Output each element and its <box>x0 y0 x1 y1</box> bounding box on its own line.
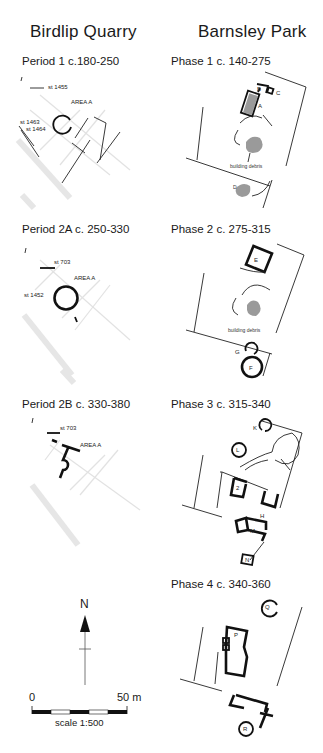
scale-segment <box>108 710 127 714</box>
grid-line <box>75 285 110 330</box>
label-st-1452: st 1452 <box>24 292 44 298</box>
roundhouse-ring <box>53 116 71 134</box>
north-arrow-head-icon <box>80 615 90 632</box>
label-2: 2 <box>236 485 240 491</box>
curved-feature <box>240 433 299 467</box>
barnsley-phase-1-plan: B C A building debris D <box>186 72 306 208</box>
building-m <box>246 518 266 541</box>
building-debris-area <box>246 137 263 153</box>
label-p: P <box>234 632 238 638</box>
label-area-a: AREA A <box>71 99 92 105</box>
birdlip-period-1-plan: st 1455 AREA A st 1463 st 1464 <box>18 77 130 198</box>
label-a: A <box>258 103 262 109</box>
scale-segment <box>51 710 70 714</box>
label-st-703: st 703 <box>54 259 71 265</box>
line-feature <box>281 459 290 470</box>
building-c <box>267 87 273 93</box>
barnsley-phase-3-plan: K L 2 H M N <box>182 419 302 565</box>
building-debris-area <box>247 301 261 316</box>
enclosure-boundary <box>276 244 304 333</box>
barnsley-phase-4-plan: Q P R <box>180 601 302 736</box>
label-st-703: st 703 <box>60 425 77 431</box>
north-label: N <box>80 597 89 611</box>
north-tick <box>25 248 26 253</box>
scale-segment <box>70 710 89 714</box>
road-band <box>24 315 72 375</box>
birdlip-period-2a-plan: st 703 AREA A st 1452 <box>22 195 130 375</box>
boundary-line <box>186 330 272 354</box>
label-h: H <box>260 513 264 519</box>
birdlip-period-2b-plan: st 703 AREA A <box>32 370 140 545</box>
scale-end-label: 50 m <box>117 691 141 703</box>
feature-mark <box>75 317 77 322</box>
label-n: N <box>245 557 249 563</box>
label-g: G <box>235 349 240 355</box>
boundary-line <box>215 652 218 684</box>
site-plans-drawing: st 1455 AREA A st 1463 st 1464 st 703 AR… <box>0 0 323 753</box>
boundary-line <box>197 107 203 160</box>
label-building-debris: building debris <box>230 163 263 169</box>
label-k: K <box>253 425 257 431</box>
ditch-line <box>75 118 88 138</box>
label-c: C <box>276 90 281 96</box>
label-b: B <box>257 86 261 92</box>
line-feature <box>263 115 272 126</box>
north-tick <box>32 418 33 423</box>
boundary-line <box>194 273 204 332</box>
building-unnamed <box>262 491 278 507</box>
label-st-1455: st 1455 <box>48 84 68 90</box>
barnsley-phase-2-plan: E building debris G F <box>186 244 304 377</box>
label-building-debris: building debris <box>228 327 261 333</box>
road-band <box>32 485 78 545</box>
north-tick <box>21 77 22 81</box>
label-m: M <box>250 528 255 534</box>
label-r: R <box>243 726 248 732</box>
scale-bar <box>32 706 127 714</box>
boundary-line <box>194 627 203 681</box>
roundhouse-st-1452 <box>55 287 78 310</box>
curved-feature <box>245 460 268 470</box>
label-q: Q <box>265 604 270 610</box>
building-e <box>246 246 272 272</box>
grid-line <box>60 110 105 165</box>
boundary-line <box>277 607 302 686</box>
arc-feature <box>240 116 262 123</box>
label-d: D <box>233 184 237 190</box>
boundary-line <box>217 472 222 508</box>
label-f: F <box>249 365 253 371</box>
enclosure-boundary <box>262 421 302 508</box>
building-k <box>259 419 271 431</box>
grid-line <box>40 95 130 170</box>
building-d-debris <box>236 184 251 197</box>
label-l: L <box>236 447 240 453</box>
arc-feature <box>232 298 238 315</box>
arc-feature <box>234 130 240 145</box>
label-area-a: AREA A <box>74 275 95 281</box>
road-band <box>18 140 70 198</box>
scale-segment <box>89 710 108 714</box>
arc-feature <box>242 285 270 295</box>
label-area-a: AREA A <box>80 442 101 448</box>
scale-caption: scale 1:500 <box>55 717 104 728</box>
label-st-1464: st 1464 <box>26 126 46 132</box>
road-band <box>22 195 34 208</box>
building-r-range <box>230 695 273 728</box>
scale-start-label: 0 <box>29 691 35 703</box>
scale-segment <box>32 710 51 714</box>
boundary-line <box>194 455 203 508</box>
boundary-line <box>182 505 222 517</box>
grid-line <box>80 450 118 495</box>
label-st-1463: st 1463 <box>20 119 40 125</box>
boundary-line <box>263 353 270 376</box>
line-feature <box>250 542 264 560</box>
line-feature <box>248 153 250 162</box>
enclosure-boundary <box>265 72 306 166</box>
label-e: E <box>254 257 258 263</box>
building-h-west <box>236 518 248 532</box>
north-arrow <box>79 615 91 685</box>
